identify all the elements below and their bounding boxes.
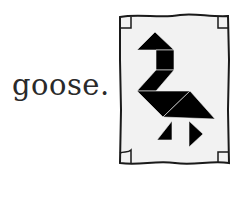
tangram-goose-illustration: [0, 0, 237, 203]
goose-neck-square: [156, 50, 174, 70]
parchment-frame: [120, 14, 229, 163]
